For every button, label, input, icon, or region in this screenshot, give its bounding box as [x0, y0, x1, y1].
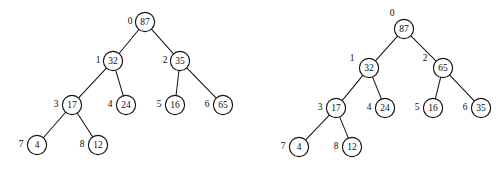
node-index-label: 2	[163, 55, 168, 65]
node-value-label: 24	[121, 100, 131, 110]
tree-node[interactable]: 165	[415, 98, 443, 117]
node-index-label: 2	[423, 53, 428, 63]
tree-node[interactable]: 128	[334, 137, 362, 156]
node-value-label: 12	[93, 140, 103, 150]
node-index-label: 8	[80, 139, 85, 149]
tree-edge	[119, 29, 140, 54]
tree-node[interactable]: 870	[390, 8, 414, 39]
node-value-label: 87	[140, 17, 150, 27]
tree-node[interactable]: 321	[96, 51, 123, 70]
tree-node[interactable]: 173	[54, 95, 82, 114]
tree-edge	[305, 115, 330, 141]
node-value-label: 16	[428, 103, 438, 113]
node-value-label: 32	[364, 63, 374, 73]
tree-edge	[372, 76, 381, 99]
node-value-label: 4	[35, 140, 40, 150]
tree-node[interactable]: 47	[281, 137, 309, 156]
node-index-label: 5	[415, 102, 420, 112]
tree-edge	[339, 116, 348, 138]
node-index-label: 6	[205, 99, 210, 109]
tree-edge	[342, 75, 364, 101]
tree-node[interactable]: 870	[128, 12, 155, 31]
tree-edge	[43, 112, 66, 138]
node-index-label: 7	[19, 139, 24, 149]
node-index-label: 1	[96, 55, 101, 65]
right-tree-edges	[305, 35, 475, 140]
left-tree: 87032135217324416565647128	[19, 12, 233, 154]
node-value-label: 4	[297, 142, 302, 152]
node-value-label: 17	[67, 100, 77, 110]
node-index-label: 4	[367, 102, 372, 112]
tree-node[interactable]: 128	[80, 135, 108, 154]
left-tree-edges	[43, 29, 217, 139]
tree-node[interactable]: 352	[163, 51, 190, 70]
node-value-label: 35	[476, 103, 486, 113]
node-value-label: 24	[380, 103, 390, 113]
node-value-label: 17	[331, 103, 341, 113]
node-value-label: 65	[218, 100, 228, 110]
tree-edge	[435, 77, 441, 100]
node-index-label: 8	[334, 141, 339, 151]
tree-node[interactable]: 652	[423, 53, 453, 78]
node-index-label: 3	[318, 102, 323, 112]
node-value-label: 35	[175, 56, 185, 66]
tree-node[interactable]: 321	[350, 53, 379, 78]
node-index-label: 5	[157, 99, 162, 109]
node-index-label: 0	[390, 8, 395, 18]
tree-edge	[186, 67, 216, 98]
tree-edge	[78, 68, 107, 99]
node-value-label: 32	[108, 56, 118, 66]
tree-edge	[151, 29, 174, 55]
tree-node[interactable]: 244	[367, 98, 395, 117]
tree-node[interactable]: 656	[205, 95, 233, 114]
node-index-label: 7	[281, 141, 286, 151]
tree-edge	[375, 36, 398, 62]
node-index-label: 1	[350, 53, 355, 63]
tree-diagram-canvas: 8703213521732441656564712887032165217324…	[0, 0, 499, 174]
tree-edge	[77, 113, 93, 138]
node-value-label: 16	[170, 100, 180, 110]
node-index-label: 6	[463, 102, 468, 112]
node-value-label: 87	[399, 24, 409, 34]
tree-node[interactable]: 165	[157, 95, 185, 114]
node-index-label: 0	[128, 16, 133, 26]
node-value-label: 65	[438, 63, 448, 73]
tree-node[interactable]: 47	[19, 135, 47, 154]
tree-edge	[176, 70, 179, 96]
right-tree: 87032165217324416535647128	[281, 8, 491, 157]
tree-node[interactable]: 356	[463, 98, 491, 117]
binary-tree-figure: 8703213521732441656564712887032165217324…	[0, 0, 499, 174]
tree-node[interactable]: 173	[318, 98, 346, 117]
node-value-label: 12	[347, 142, 357, 152]
node-index-label: 4	[108, 99, 113, 109]
tree-edge	[449, 75, 475, 102]
tree-node[interactable]: 244	[108, 95, 136, 114]
tree-edge	[116, 70, 124, 97]
node-index-label: 3	[54, 99, 59, 109]
